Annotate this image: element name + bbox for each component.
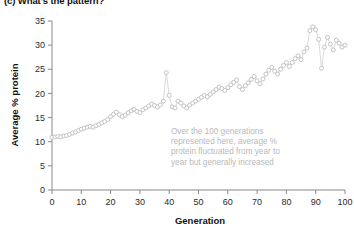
data-point bbox=[167, 93, 171, 97]
data-point bbox=[173, 106, 177, 110]
annotation-line: protein fluctuated from year to bbox=[171, 147, 280, 156]
x-tick-label: 40 bbox=[164, 197, 174, 207]
data-point bbox=[279, 67, 283, 71]
data-point bbox=[276, 72, 280, 76]
y-tick-label: 25 bbox=[35, 64, 45, 74]
y-tick-label: 10 bbox=[35, 137, 45, 147]
y-tick-label: 20 bbox=[35, 89, 45, 99]
data-point bbox=[305, 46, 309, 50]
x-tick-label: 90 bbox=[311, 197, 321, 207]
y-tick-label: 35 bbox=[35, 16, 45, 26]
data-point bbox=[261, 77, 265, 81]
y-axis-label: Average % protein bbox=[9, 63, 20, 146]
data-point bbox=[240, 88, 244, 92]
data-point bbox=[264, 72, 268, 76]
x-tick-label: 30 bbox=[135, 197, 145, 207]
data-point bbox=[328, 42, 332, 46]
data-point bbox=[284, 61, 288, 65]
y-tick-label: 5 bbox=[40, 161, 45, 171]
annotation-line: Over the 100 generations bbox=[171, 127, 263, 136]
x-axis-label: Generation bbox=[175, 215, 225, 226]
data-point bbox=[317, 37, 321, 41]
data-point bbox=[158, 103, 162, 107]
data-point bbox=[299, 58, 303, 62]
y-axis: 05101520253035 bbox=[35, 16, 52, 195]
annotation-line: year but generally increased bbox=[171, 158, 274, 167]
data-point bbox=[314, 28, 318, 32]
data-point bbox=[322, 45, 326, 49]
chart-figure: (c) What's the pattern? 05101520253035 0… bbox=[0, 0, 354, 233]
data-point bbox=[290, 61, 294, 65]
x-tick-label: 50 bbox=[193, 197, 203, 207]
data-point bbox=[246, 81, 250, 85]
data-point bbox=[287, 64, 291, 68]
x-tick-label: 0 bbox=[49, 197, 54, 207]
x-tick-label: 10 bbox=[76, 197, 86, 207]
series-line bbox=[52, 27, 345, 138]
x-tick-label: 20 bbox=[106, 197, 116, 207]
data-point bbox=[164, 71, 168, 75]
x-tick-label: 70 bbox=[252, 197, 262, 207]
data-point bbox=[320, 66, 324, 70]
data-point bbox=[343, 43, 347, 47]
y-axis-ticks: 05101520253035 bbox=[35, 16, 52, 195]
data-point bbox=[161, 99, 165, 103]
y-tick-label: 0 bbox=[40, 185, 45, 195]
scatter-line-chart: 05101520253035 0102030405060708090100 Av… bbox=[0, 0, 354, 233]
data-point bbox=[270, 65, 274, 69]
data-point bbox=[325, 35, 329, 39]
data-point bbox=[235, 78, 239, 82]
x-axis: 0102030405060708090100 bbox=[49, 190, 352, 207]
data-point bbox=[302, 50, 306, 54]
x-tick-label: 80 bbox=[281, 197, 291, 207]
y-tick-label: 30 bbox=[35, 40, 45, 50]
data-series bbox=[50, 25, 347, 140]
annotation-line: represented here, average % bbox=[171, 137, 277, 146]
y-tick-label: 15 bbox=[35, 113, 45, 123]
data-point bbox=[308, 29, 312, 33]
data-point bbox=[331, 48, 335, 52]
x-tick-label: 100 bbox=[337, 197, 352, 207]
x-axis-ticks: 0102030405060708090100 bbox=[49, 190, 352, 207]
series-markers bbox=[50, 25, 347, 140]
data-point bbox=[252, 75, 256, 79]
x-tick-label: 60 bbox=[223, 197, 233, 207]
data-point bbox=[337, 41, 341, 45]
chart-annotation: Over the 100 generationsrepresented here… bbox=[171, 127, 280, 167]
data-point bbox=[258, 82, 262, 86]
data-point bbox=[296, 54, 300, 58]
